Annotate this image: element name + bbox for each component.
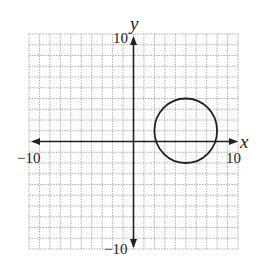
x-axis-arrow-left-icon (31, 138, 40, 145)
y-axis-arrow-down-icon (130, 239, 137, 248)
y-axis-label: y (128, 13, 139, 34)
x-axis-label: x (239, 131, 249, 152)
x-min-tick-label: −10 (17, 150, 40, 166)
y-min-tick-label: −10 (104, 241, 127, 257)
coordinate-plane: −10 10 10 −10 x y (0, 0, 258, 268)
x-axis-arrow-right-icon (229, 138, 238, 145)
y-max-tick-label: 10 (113, 30, 128, 46)
y-axis-arrow-up-icon (130, 36, 137, 45)
x-max-tick-label: 10 (226, 150, 241, 166)
